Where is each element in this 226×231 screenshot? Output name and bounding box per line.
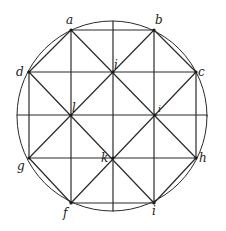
chord-ad [29, 30, 71, 72]
chord-hi [154, 158, 196, 203]
vertex-g [27, 156, 30, 159]
geometric-figure: a b c d i l i k h g f i [0, 0, 226, 231]
chord-fg [29, 158, 71, 203]
label-l: l [72, 101, 76, 115]
vertex-h [194, 156, 197, 159]
diagonal-d-to-i [29, 72, 154, 203]
vertex-b [152, 28, 155, 31]
label-i-top: i [114, 58, 118, 72]
label-k: k [101, 151, 108, 165]
circumscribed-circle [17, 21, 207, 211]
diagonal-a-to-h [71, 30, 196, 158]
chord-bc [154, 30, 196, 72]
vertex-k [111, 156, 114, 159]
label-i-bottom: i [152, 204, 156, 218]
label-f: f [62, 206, 70, 220]
label-d: d [16, 65, 24, 79]
vertex-d [27, 70, 30, 73]
diagram-canvas: a b c d i l i k h g f i [0, 0, 226, 231]
vertex-right-mid [153, 113, 156, 116]
vertex-f [69, 201, 72, 204]
label-i-right: i [158, 104, 161, 114]
label-g: g [17, 159, 25, 173]
diagonal-f-to-c [71, 72, 196, 203]
label-c: c [198, 65, 205, 79]
label-a: a [66, 13, 73, 27]
vertex-a [69, 28, 72, 31]
diagonal-g-to-b [29, 30, 154, 158]
label-h: h [199, 151, 207, 165]
label-b: b [155, 13, 163, 27]
